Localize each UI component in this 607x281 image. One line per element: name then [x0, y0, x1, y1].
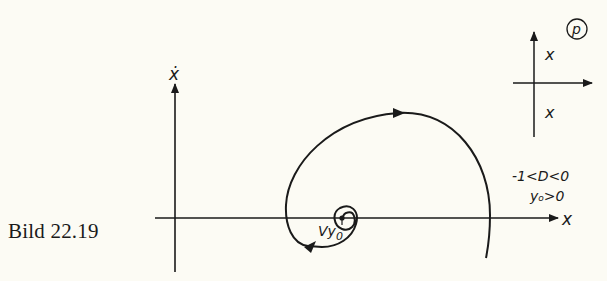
pole-plot-label: p	[571, 21, 581, 37]
figure-caption: Bild 22.19	[8, 219, 99, 244]
pole-marker-upper: x	[544, 45, 555, 64]
damping-condition: -1<D<0	[512, 168, 569, 184]
x-axis-label: x	[561, 209, 573, 229]
pole-plot: p x x	[513, 19, 592, 137]
initial-condition: yo>0	[529, 188, 565, 204]
y-axis-label: ẋ	[168, 64, 180, 84]
trajectory-direction-arrow-top	[393, 108, 405, 118]
pole-marker-lower: x	[544, 103, 555, 122]
main-phase-plane: x ẋ Vy0 -1<D<0 yo>0	[155, 64, 573, 272]
spiral-trajectory	[286, 113, 490, 258]
equilibrium-label: Vy0	[318, 223, 343, 243]
